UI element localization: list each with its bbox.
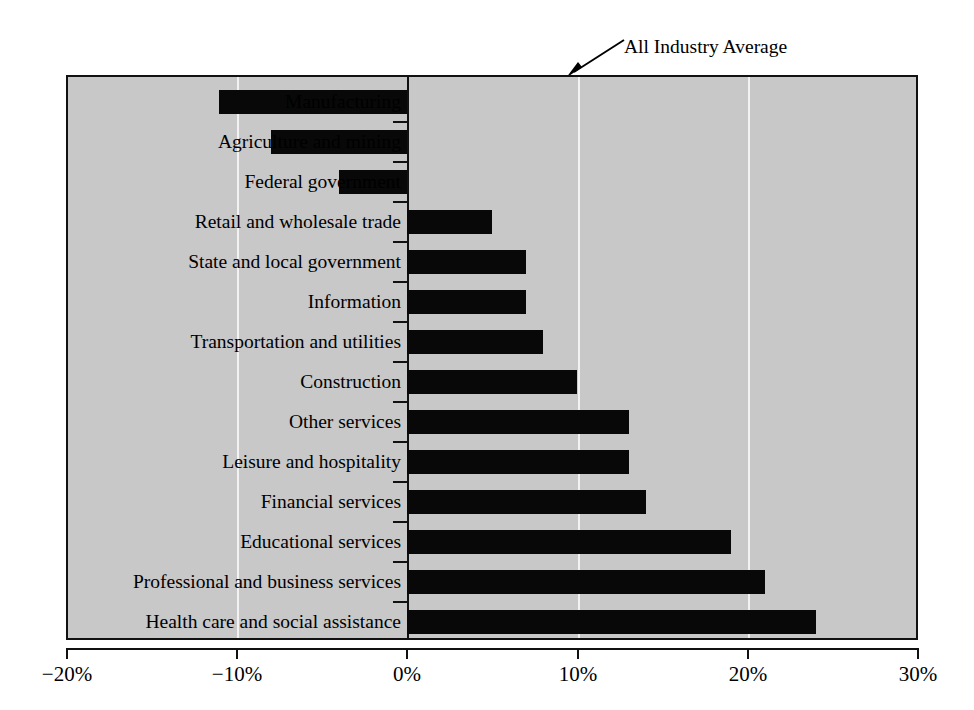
x-tick-label-20: 20% bbox=[729, 662, 768, 687]
x-tick-20 bbox=[747, 648, 749, 659]
bar-professional-and-business-services bbox=[407, 570, 765, 594]
x-tick-10 bbox=[577, 648, 579, 659]
category-tick bbox=[393, 481, 407, 483]
bar-other-services bbox=[407, 410, 629, 434]
x-axis-line bbox=[66, 648, 918, 650]
category-label-educational-services: Educational services bbox=[68, 530, 407, 554]
category-tick bbox=[393, 361, 407, 363]
all-industry-average-label: All Industry Average bbox=[624, 36, 787, 58]
category-tick bbox=[393, 521, 407, 523]
x-tick-neg10 bbox=[236, 648, 238, 659]
x-tick-label-10: 10% bbox=[559, 662, 598, 687]
category-label-health-care-and-social-assistance: Health care and social assistance bbox=[48, 610, 407, 634]
category-label-financial-services: Financial services bbox=[68, 490, 407, 514]
category-label-information: Information bbox=[68, 290, 407, 314]
category-tick bbox=[393, 321, 407, 323]
bar-financial-services bbox=[407, 490, 646, 514]
bar-transportation-and-utilities bbox=[407, 330, 543, 354]
category-tick bbox=[393, 241, 407, 243]
category-label-transportation-and-utilities: Transportation and utilities bbox=[68, 330, 407, 354]
x-tick-label-0: 0% bbox=[393, 662, 421, 687]
category-tick bbox=[393, 161, 407, 163]
x-tick-label-neg20: −20% bbox=[42, 662, 92, 687]
bar-state-and-local-government bbox=[407, 250, 526, 274]
category-label-construction: Construction bbox=[68, 370, 407, 394]
category-label-professional-and-business-services: Professional and business services bbox=[48, 570, 407, 594]
x-tick-0 bbox=[406, 648, 408, 659]
bar-information bbox=[407, 290, 526, 314]
category-tick bbox=[393, 441, 407, 443]
x-tick-neg20 bbox=[66, 648, 68, 659]
category-label-retail-and-wholesale-trade: Retail and wholesale trade bbox=[68, 210, 407, 234]
bar-health-care-and-social-assistance bbox=[407, 610, 816, 634]
x-tick-30 bbox=[917, 648, 919, 659]
category-label-leisure-and-hospitality: Leisure and hospitality bbox=[68, 450, 407, 474]
bar-construction bbox=[407, 370, 577, 394]
x-tick-label-30: 30% bbox=[899, 662, 938, 687]
bar-educational-services bbox=[407, 530, 731, 554]
category-tick bbox=[393, 561, 407, 563]
bar-leisure-and-hospitality bbox=[407, 450, 629, 474]
x-tick-label-neg10: −10% bbox=[212, 662, 262, 687]
all-industry-average-arrow-icon bbox=[560, 34, 630, 80]
category-tick bbox=[393, 601, 407, 603]
category-label-other-services: Other services bbox=[68, 410, 407, 434]
plot-area: Manufacturing Agriculture and mining Fed… bbox=[66, 75, 918, 640]
category-tick bbox=[393, 401, 407, 403]
category-label-manufacturing: Manufacturing bbox=[68, 90, 407, 114]
category-tick bbox=[393, 281, 407, 283]
category-label-state-and-local-government: State and local government bbox=[68, 250, 407, 274]
category-label-federal-government: Federal government bbox=[68, 170, 407, 194]
category-label-agriculture-and-mining: Agriculture and mining bbox=[68, 130, 407, 154]
gridline-20 bbox=[748, 77, 750, 638]
bar-retail-and-wholesale-trade bbox=[407, 210, 492, 234]
category-tick bbox=[393, 121, 407, 123]
chart-figure: All Industry Average bbox=[0, 0, 974, 710]
category-tick bbox=[393, 201, 407, 203]
